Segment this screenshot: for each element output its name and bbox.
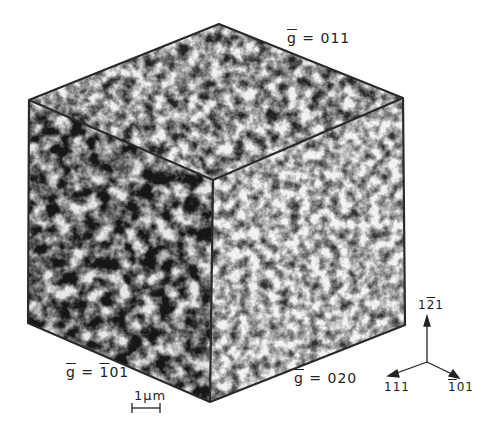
scale-bar [132,403,160,413]
scale-bar-label: 1μm [134,388,166,403]
axis-left-label: 111 [384,380,410,394]
axis-right-label: 101 [448,380,474,394]
left-face-g-label: g = 101 [66,364,129,380]
top-face-g-label: g = 011 [287,30,350,46]
axis-up-label: 121 [418,298,444,312]
right-face-g-label: g = 020 [294,370,357,386]
